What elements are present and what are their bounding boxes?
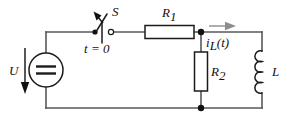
label-resistor-r2: R2 bbox=[210, 64, 226, 83]
label-switch-name: S bbox=[112, 4, 119, 19]
label-source-voltage: U bbox=[9, 63, 20, 78]
label-current-arg: (t) bbox=[217, 35, 229, 50]
label-r1-subscript: 1 bbox=[170, 9, 177, 24]
inductor-current-arrow bbox=[209, 22, 236, 30]
switch-action-arrow bbox=[94, 12, 104, 24]
circuit-diagram-figure: U S t = 0 R1 R2 L iL(t) bbox=[0, 0, 287, 121]
label-inductor-l: L bbox=[271, 64, 279, 79]
voltage-source-symbol bbox=[29, 53, 63, 87]
label-r1-letter: R bbox=[161, 5, 170, 20]
current-arrow-head bbox=[225, 22, 236, 30]
label-r2-subscript: 2 bbox=[219, 68, 226, 83]
resistor-r1-body bbox=[145, 26, 194, 39]
switch-symbol[interactable] bbox=[92, 12, 113, 44]
label-r2-letter: R bbox=[210, 64, 219, 79]
voltage-arrow-head bbox=[21, 82, 29, 94]
voltage-source-circle bbox=[29, 53, 63, 87]
inductor-coil-path bbox=[255, 51, 262, 94]
label-switch-time: t = 0 bbox=[84, 41, 110, 56]
switch-right-terminal-open-circle bbox=[108, 29, 113, 34]
label-switch-time-eq: = 0 bbox=[88, 41, 110, 56]
source-voltage-arrow bbox=[21, 48, 29, 94]
label-inductor-current: iL(t) bbox=[206, 35, 229, 53]
resistor-r2-body bbox=[195, 52, 208, 91]
label-resistor-r1: R1 bbox=[161, 5, 176, 24]
circuit-svg-canvas: U S t = 0 R1 R2 L iL(t) bbox=[0, 0, 287, 121]
inductor-l-coil bbox=[255, 51, 262, 94]
junction-dot-top bbox=[198, 29, 204, 35]
junction-dot-bottom bbox=[198, 105, 204, 111]
label-current-subscript: L bbox=[209, 38, 217, 53]
